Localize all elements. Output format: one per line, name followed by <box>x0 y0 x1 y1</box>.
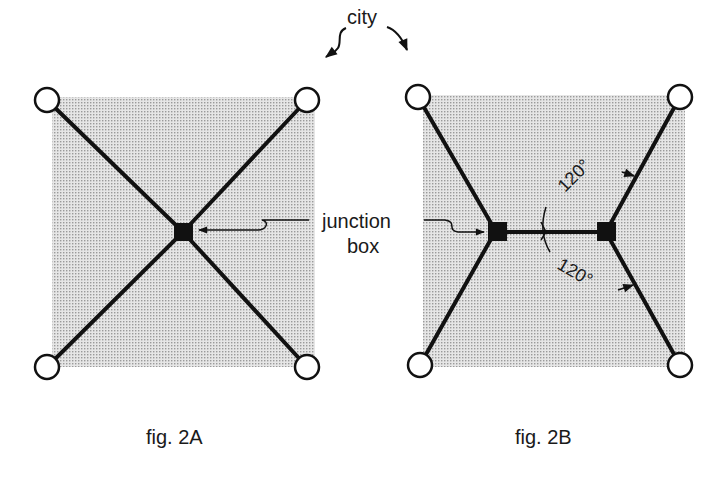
city-icon <box>668 85 692 109</box>
city-icon <box>668 353 692 377</box>
callout-arrow-icon <box>326 28 346 57</box>
city-icon <box>406 85 430 109</box>
city-icon <box>295 88 319 112</box>
city-callout: city <box>326 6 407 57</box>
junction-box-icon <box>174 223 193 241</box>
junction-label-line2: box <box>347 235 379 257</box>
city-icon <box>35 88 59 112</box>
city-label: city <box>347 6 377 28</box>
caption-fig-2b: fig. 2B <box>515 426 572 448</box>
city-icon <box>408 353 432 377</box>
callout-arrow-icon <box>387 27 407 50</box>
junction-box-icon <box>597 222 616 241</box>
caption-fig-2a: fig. 2A <box>146 426 203 448</box>
figure-2b: 120° 120° fig. 2B <box>406 85 692 448</box>
city-icon <box>35 355 59 379</box>
junction-box-icon <box>488 222 507 241</box>
junction-label-line1: junction <box>321 210 391 232</box>
diagram-canvas: fig. 2A 120° 120° fig. 2B city <box>0 0 727 483</box>
figure-2a: fig. 2A <box>35 88 319 448</box>
city-icon <box>295 355 319 379</box>
